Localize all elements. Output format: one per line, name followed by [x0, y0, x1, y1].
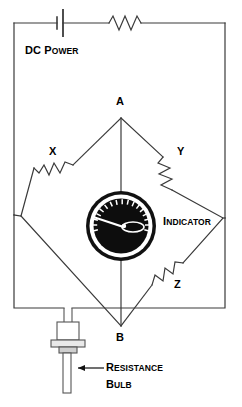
- callout-arrowhead: [78, 365, 85, 371]
- resistance-bulb-callout: [78, 365, 104, 371]
- label-dc-power: DC POWER: [25, 41, 79, 58]
- circuit-diagram: DC POWER INDICATOR RESISTANCEBULB A B X …: [0, 0, 242, 407]
- label-resistance-bulb: RESISTANCEBULB: [106, 358, 163, 392]
- dc-power-small: OWER: [52, 46, 79, 56]
- bulb-body: [57, 322, 79, 340]
- resistance-bulb-assembly: [51, 308, 85, 393]
- resistor-y-zigzag: [158, 157, 172, 190]
- circuit-schematic-svg: [0, 0, 242, 407]
- label-resistor-z: Z: [174, 279, 181, 291]
- bulb-hex-nut: [59, 347, 77, 353]
- resistance-small: ESISTANCE: [114, 363, 163, 373]
- bulb-flange: [51, 340, 85, 347]
- wire-resistor-x-to-left-vertex: [14, 168, 34, 216]
- dc-power-cap: DC: [25, 44, 41, 56]
- resistor-x-zigzag: [34, 162, 73, 175]
- wire-a-to-resistor-y: [121, 118, 163, 157]
- series-resistor-zigzag: [109, 16, 141, 30]
- bulb-cap: B: [106, 378, 114, 390]
- resistance-bulb-line2: BULB: [106, 375, 163, 392]
- bulb-probe-stem: [63, 353, 71, 393]
- indicator-small: NDICATOR: [166, 217, 211, 227]
- resistance-bulb-line1: RESISTANCE: [106, 357, 163, 374]
- gauge-needle-pivot: [122, 224, 126, 228]
- label-resistor-y: Y: [177, 146, 184, 158]
- wire-left-rail-to-bulb: [14, 215, 64, 308]
- resistance-cap: R: [106, 361, 114, 373]
- label-resistor-x: X: [49, 146, 56, 158]
- bulb-small: ULB: [114, 380, 132, 390]
- dc-power-rest: P: [41, 44, 52, 56]
- wire-resistor-z-to-b: [121, 285, 152, 326]
- label-node-a: A: [116, 96, 124, 108]
- wire-a-to-resistor-x: [73, 118, 121, 165]
- label-indicator: INDICATOR: [163, 212, 211, 229]
- label-node-b: B: [116, 332, 124, 344]
- indicator-gauge: [86, 191, 156, 261]
